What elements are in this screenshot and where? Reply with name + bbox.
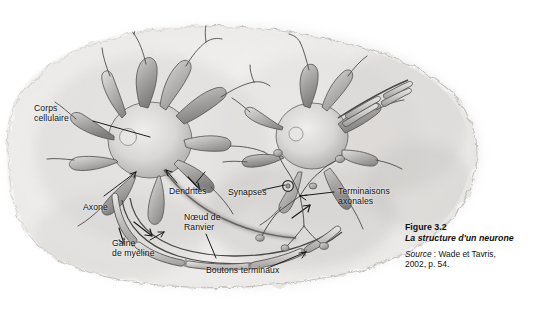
label-synapses: Synapses: [228, 188, 267, 198]
source-word: Source: [405, 249, 432, 259]
nucleus-right: [289, 127, 303, 141]
figure-container: Corps cellulaire Axone Dendrites Nœud de…: [0, 0, 544, 314]
figure-source-line-2: 2002, p. 54.: [405, 259, 537, 269]
source-separator: :: [432, 249, 439, 259]
figure-caption: Figure 3.2 La structure d'un neurone Sou…: [405, 222, 537, 269]
figure-title: La structure d'un neurone: [405, 233, 537, 244]
label-axone: Axone: [83, 203, 108, 213]
label-corps-cellulaire: Corps cellulaire: [34, 103, 69, 124]
label-boutons-terminaux: Boutons terminaux: [206, 266, 279, 276]
figure-number: Figure 3.2: [405, 222, 537, 233]
label-terminaisons-axonales: Terminaisons axonales: [338, 186, 390, 207]
source-text: Wade et Tavris,: [439, 249, 496, 259]
label-dendrites: Dendrites: [169, 187, 207, 197]
label-gaine-de-myeline: Gaine de myéline: [112, 238, 155, 259]
synapse-detail: [283, 181, 294, 192]
label-noeud-de-ranvier: Nœud de Ranvier: [184, 212, 221, 233]
figure-source-line-1: Source : Wade et Tavris,: [405, 249, 537, 259]
